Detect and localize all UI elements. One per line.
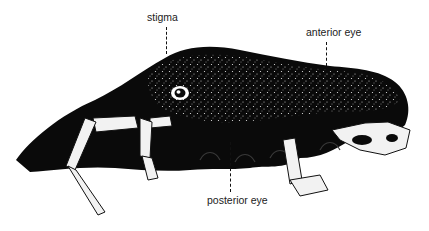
stigma-spiracle: [171, 86, 189, 100]
anterior-eye-leader-line: [326, 42, 327, 66]
stigma-label: stigma: [147, 12, 178, 23]
stigma-leader-line: [166, 27, 167, 54]
posterior-eye-leader-line: [230, 142, 231, 192]
anterior-eye-label: anterior eye: [306, 27, 361, 38]
posterior-eye-label: posterior eye: [207, 195, 268, 206]
